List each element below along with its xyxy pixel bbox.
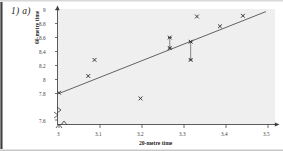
figure-page: 1) a) 9 8.8 8.6 8.4 8.2 8 7.8 7.6 60-met…: [0, 0, 283, 151]
x-axis-ticks: [59, 125, 268, 129]
axes-svg: [0, 0, 283, 151]
x-axis-arrow: [275, 122, 280, 126]
